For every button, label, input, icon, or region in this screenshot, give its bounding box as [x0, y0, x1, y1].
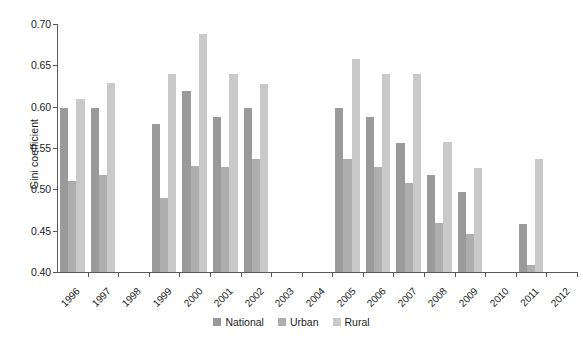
bar-rural-1996	[76, 99, 84, 272]
bar-urban-1999	[160, 198, 168, 272]
x-tick-mark	[241, 273, 242, 277]
bar-national-2005	[335, 108, 343, 273]
legend-item-national[interactable]: National	[213, 316, 264, 328]
x-tick-mark	[393, 273, 394, 277]
bar-rural-2007	[413, 74, 421, 272]
bar-rural-2006	[382, 74, 390, 272]
chart-legend: NationalUrbanRural	[0, 316, 583, 328]
x-tick-mark	[88, 273, 89, 277]
x-tick-mark	[424, 273, 425, 277]
bar-urban-1997	[99, 175, 107, 272]
bar-national-2006	[366, 117, 374, 272]
legend-label: Urban	[290, 316, 319, 328]
bar-urban-1996	[68, 181, 76, 272]
x-tick-mark	[302, 273, 303, 277]
legend-swatch-rural-icon	[333, 318, 341, 326]
y-tick-label: 0.45	[17, 225, 51, 237]
bar-national-2008	[427, 175, 435, 272]
bar-national-2000	[182, 91, 190, 272]
x-tick-mark	[179, 273, 180, 277]
bar-urban-2000	[191, 166, 199, 272]
bar-national-2011	[519, 224, 527, 272]
bar-urban-2009	[466, 234, 474, 272]
x-tick-mark	[516, 273, 517, 277]
legend-swatch-national-icon	[213, 318, 221, 326]
bar-national-2001	[213, 117, 221, 272]
x-tick-mark	[363, 273, 364, 277]
legend-label: Rural	[345, 316, 370, 328]
bar-urban-2011	[527, 265, 535, 272]
bar-rural-2005	[352, 59, 360, 272]
bar-rural-2009	[474, 168, 482, 272]
bar-urban-2008	[435, 223, 443, 272]
x-tick-mark	[485, 273, 486, 277]
y-tick-label: 0.40	[17, 266, 51, 278]
y-tick-label: 0.60	[17, 101, 51, 113]
bar-urban-2005	[343, 159, 351, 272]
bar-rural-1999	[168, 74, 176, 272]
bar-national-2007	[396, 143, 404, 272]
bar-rural-2000	[199, 34, 207, 272]
bar-rural-2001	[229, 74, 237, 272]
bar-urban-2002	[252, 159, 260, 272]
x-tick-mark	[455, 273, 456, 277]
x-tick-mark	[546, 273, 547, 277]
legend-item-urban[interactable]: Urban	[278, 316, 319, 328]
x-tick-mark	[332, 273, 333, 277]
x-tick-mark	[577, 273, 578, 277]
y-tick-label: 0.50	[17, 183, 51, 195]
y-tick-label: 0.55	[17, 142, 51, 154]
gini-coefficient-bar-chart: Gini coefficient 0.400.450.500.550.600.6…	[0, 0, 583, 339]
bar-national-1996	[60, 108, 68, 273]
bar-national-1999	[152, 124, 160, 272]
legend-label: National	[225, 316, 264, 328]
x-axis-line	[57, 272, 578, 273]
bar-national-2009	[458, 192, 466, 272]
bar-rural-2008	[443, 142, 451, 272]
x-tick-mark	[149, 273, 150, 277]
bar-rural-2002	[260, 84, 268, 272]
bar-rural-2011	[535, 159, 543, 272]
legend-item-rural[interactable]: Rural	[333, 316, 370, 328]
bar-urban-2007	[405, 183, 413, 272]
x-tick-mark	[271, 273, 272, 277]
x-tick-mark	[210, 273, 211, 277]
x-tick-mark	[118, 273, 119, 277]
y-tick-label: 0.70	[17, 18, 51, 30]
legend-swatch-urban-icon	[278, 318, 286, 326]
bar-national-1997	[91, 108, 99, 272]
bar-urban-2006	[374, 167, 382, 272]
bar-rural-1997	[107, 83, 115, 272]
bar-national-2002	[244, 108, 252, 272]
bar-urban-2001	[221, 167, 229, 272]
plot-area	[57, 24, 577, 272]
y-tick-label: 0.65	[17, 59, 51, 71]
